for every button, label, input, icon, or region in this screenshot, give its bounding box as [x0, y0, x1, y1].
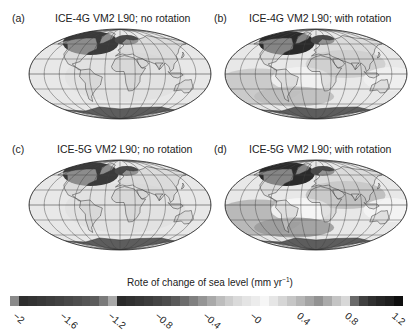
colorbar-cell	[171, 296, 180, 306]
map-content	[29, 29, 211, 119]
colorbar-cell	[153, 296, 162, 306]
colorbar-cell	[216, 296, 225, 306]
colorbar-cell	[64, 296, 73, 306]
colorbar-cell	[162, 296, 171, 306]
panel-label: (c)	[12, 143, 24, 155]
colorbar-cell	[368, 296, 377, 306]
colorbar-cell	[73, 296, 82, 306]
colorbar-cell	[385, 296, 394, 306]
colorbar-cell	[135, 296, 144, 306]
colorbar-tick-label: 0.8	[343, 310, 361, 327]
colorbar-cell	[10, 296, 19, 306]
colorbar-cell	[376, 296, 385, 306]
colorbar-cell	[278, 296, 287, 306]
colorbar-cell	[332, 296, 341, 306]
colorbar-cell	[251, 296, 260, 306]
colorbar-cell	[144, 296, 153, 306]
colorbar-tick-label: −1.2	[106, 310, 128, 331]
colorbar-cell	[242, 296, 251, 306]
colorbar-cell	[108, 296, 117, 306]
colorbar-cell	[82, 296, 91, 306]
colorbar-cell	[198, 296, 207, 306]
colorbar-tick-label: 1.2	[390, 310, 408, 327]
colorbar	[10, 296, 403, 306]
colorbar-cell	[314, 296, 323, 306]
panel-b: (b) ICE-4G VM2 L90; with rotation	[210, 0, 420, 135]
colorbar-cell	[296, 296, 305, 306]
colorbar-tick-label: −0.4	[200, 310, 222, 331]
colorbar-cell	[359, 296, 368, 306]
colorbar-cell	[37, 296, 46, 306]
colorbar-cell	[269, 296, 278, 306]
colorbar-tick-label: 0.4	[295, 310, 313, 327]
colorbar-cell	[350, 296, 359, 306]
panel-a: (a) ICE-4G VM2 L90; no rotation	[0, 0, 210, 135]
colorbar-cell	[323, 296, 332, 306]
world-map	[223, 158, 409, 252]
world-map	[27, 158, 213, 252]
panel-c: (c) ICE-5G VM2 L90; no rotation	[0, 140, 210, 275]
colorbar-cell	[233, 296, 242, 306]
colorbar-cell	[189, 296, 198, 306]
colorbar-cell	[126, 296, 135, 306]
colorbar-cell	[180, 296, 189, 306]
panel-label: (b)	[214, 12, 227, 24]
panel-title: ICE-4G VM2 L90; no rotation	[55, 12, 190, 24]
panel-d: (d) ICE-5G VM2 L90; with rotation	[210, 140, 420, 275]
colorbar-title: Rote of change of sea level (mm yr−1)	[0, 276, 420, 288]
colorbar-cell	[341, 296, 350, 306]
colorbar-cell	[19, 296, 28, 306]
rotation-signal-band	[254, 218, 334, 238]
colorbar-cell	[225, 296, 234, 306]
colorbar-cell	[394, 296, 403, 306]
colorbar-cell	[305, 296, 314, 306]
panel-title: ICE-4G VM2 L90; with rotation	[249, 12, 391, 24]
colorbar-cell	[90, 296, 99, 306]
colorbar-cell	[99, 296, 108, 306]
colorbar-title-exponent: −1	[282, 276, 289, 283]
panel-label: (d)	[214, 143, 227, 155]
panel-title: ICE-5G VM2 L90; no rotation	[57, 143, 192, 155]
colorbar-cell	[117, 296, 126, 306]
colorbar-cell	[46, 296, 55, 306]
panel-title: ICE-5G VM2 L90; with rotation	[249, 143, 391, 155]
colorbar-cell	[207, 296, 216, 306]
colorbar-cell	[260, 296, 269, 306]
rotation-signal-band	[254, 87, 334, 107]
map-content	[29, 160, 211, 250]
world-map	[27, 27, 213, 121]
colorbar-tick-label: −0.8	[153, 310, 175, 331]
panel-label: (a)	[12, 12, 25, 24]
colorbar-title-text: Rote of change of sea level (mm yr	[127, 277, 282, 288]
colorbar-tick-label: −0	[248, 310, 264, 326]
colorbar-cell	[55, 296, 64, 306]
colorbar-cell	[28, 296, 37, 306]
colorbar-title-close: )	[290, 277, 293, 288]
world-map	[223, 27, 409, 121]
colorbar-tick-label: −1.6	[58, 310, 80, 331]
colorbar-tick-label: −2	[11, 310, 27, 326]
colorbar-cell	[287, 296, 296, 306]
